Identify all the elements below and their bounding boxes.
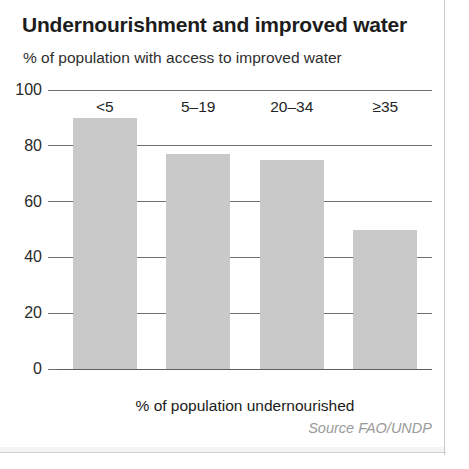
x-tick-label: ≥35 (339, 98, 433, 116)
chart-subtitle: % of population with access to improved … (23, 48, 433, 68)
x-tick-label: 5–19 (152, 98, 246, 116)
y-tick-label-100: 100 (0, 82, 42, 98)
bar (166, 154, 230, 369)
chart-title: Undernourishment and improved water (22, 12, 432, 38)
y-tick-label-0: 0 (0, 361, 42, 377)
y-tick-label-20: 20 (0, 305, 42, 321)
y-tick-mark-80 (48, 145, 58, 146)
plot-area: 020406080100<55–1920–34≥35 (58, 90, 432, 369)
y-tick-mark-0 (48, 369, 58, 370)
y-tick-mark-20 (48, 313, 58, 314)
figure-bottom-border (0, 452, 446, 453)
x-axis-title: % of population undernourished (58, 396, 432, 415)
y-tick-mark-40 (48, 257, 58, 258)
x-tick-label: 20–34 (245, 98, 339, 116)
bar (260, 160, 324, 369)
y-tick-mark-60 (48, 201, 58, 202)
gridline-100 (58, 90, 432, 91)
bar (73, 118, 137, 369)
y-tick-label-40: 40 (0, 249, 42, 265)
source-note: Source FAO/UNDP (180, 419, 432, 437)
bar (353, 230, 417, 370)
figure-right-border (444, 0, 445, 455)
y-tick-mark-100 (48, 90, 58, 91)
chart-figure: Undernourishment and improved water % of… (0, 0, 469, 469)
y-tick-label-80: 80 (0, 138, 42, 154)
y-tick-label-60: 60 (0, 194, 42, 210)
x-tick-label: <5 (58, 98, 152, 116)
